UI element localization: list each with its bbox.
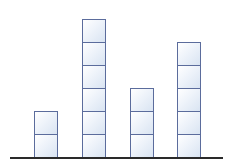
unit-block xyxy=(177,65,201,90)
block-stack-2 xyxy=(82,19,106,159)
unit-block xyxy=(34,111,58,136)
block-stack-3 xyxy=(130,88,154,159)
unit-block xyxy=(177,134,201,159)
unit-block xyxy=(177,111,201,136)
block-stack-4 xyxy=(177,42,201,159)
unit-block xyxy=(82,111,106,136)
unit-block xyxy=(177,42,201,67)
unit-block xyxy=(130,134,154,159)
unit-block xyxy=(82,42,106,67)
baseline xyxy=(10,157,223,159)
unit-block xyxy=(130,88,154,113)
unit-block xyxy=(82,134,106,159)
unit-block xyxy=(177,88,201,113)
unit-block xyxy=(34,134,58,159)
block-stack-1 xyxy=(34,111,58,159)
unit-block xyxy=(82,65,106,90)
unit-block xyxy=(130,111,154,136)
unit-block xyxy=(82,19,106,44)
unit-block xyxy=(82,88,106,113)
